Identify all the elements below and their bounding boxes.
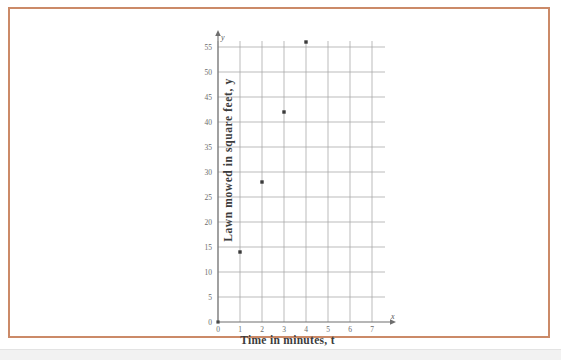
y-tick-label-30: 30 — [196, 168, 212, 177]
scatter-plot-figure: y x 0 5 10 15 20 25 30 35 40 45 50 55 0 … — [180, 19, 410, 364]
x-tick-label-4: 4 — [299, 325, 313, 334]
x-axis-line — [218, 319, 396, 325]
y-axis-arrow-label: y — [221, 33, 225, 42]
y-tick-label-0: 0 — [196, 318, 212, 327]
data-point — [304, 40, 307, 43]
y-tick-label-35: 35 — [196, 143, 212, 152]
y-tick-label-40: 40 — [196, 118, 212, 127]
x-tick-label-1: 1 — [233, 325, 247, 334]
y-tick-label-10: 10 — [196, 268, 212, 277]
x-axis-arrow-label: x — [391, 312, 395, 321]
x-tick-label-5: 5 — [321, 325, 335, 334]
x-tick-label-6: 6 — [343, 325, 357, 334]
y-tick-label-5: 5 — [196, 293, 212, 302]
x-tick-label-0: 0 — [211, 325, 225, 334]
y-tick-label-20: 20 — [196, 218, 212, 227]
page-bottom-strip — [0, 349, 561, 360]
x-axis-title: Time in minutes, t — [180, 334, 395, 346]
y-tick-label-55: 55 — [196, 43, 212, 52]
y-tick-label-50: 50 — [196, 68, 212, 77]
data-point — [238, 250, 241, 253]
y-axis-line — [215, 30, 221, 322]
y-tick-label-25: 25 — [196, 193, 212, 202]
vertical-gridlines — [218, 41, 372, 322]
y-axis-title: Lawn mowed in square feet, y — [222, 50, 234, 270]
figure-card: y x 0 5 10 15 20 25 30 35 40 45 50 55 0 … — [8, 7, 550, 338]
x-tick-label-7: 7 — [365, 325, 379, 334]
x-tick-label-2: 2 — [255, 325, 269, 334]
horizontal-gridlines — [218, 47, 385, 297]
y-tick-label-45: 45 — [196, 93, 212, 102]
data-point — [282, 110, 285, 113]
origin-marker — [216, 320, 219, 323]
y-tick-label-15: 15 — [196, 243, 212, 252]
plot-canvas — [180, 19, 410, 364]
x-tick-label-3: 3 — [277, 325, 291, 334]
data-point — [260, 180, 263, 183]
